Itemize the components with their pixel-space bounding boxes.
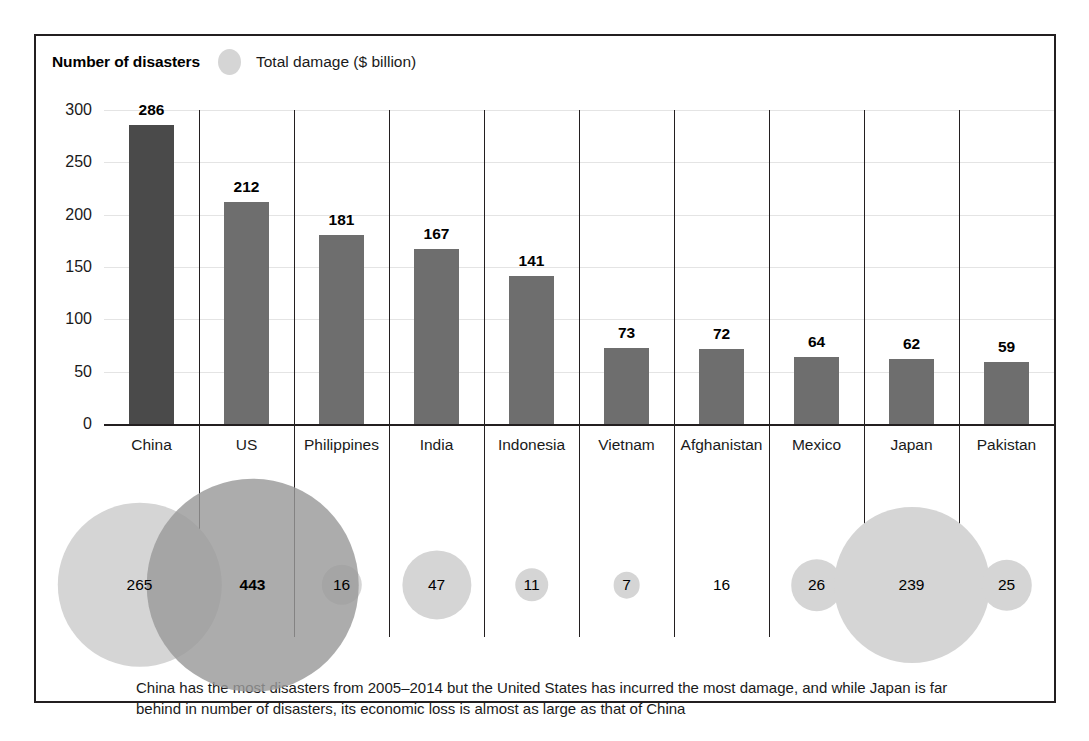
bar-pakistan[interactable] bbox=[984, 362, 1029, 424]
bar-value-label: 141 bbox=[519, 252, 545, 270]
bubble-value-label: 265 bbox=[127, 576, 153, 594]
y-axis-tick-label: 0 bbox=[54, 415, 92, 433]
bubble-value-label: 443 bbox=[240, 576, 266, 594]
bubble-value-label: 7 bbox=[622, 576, 631, 594]
bar-value-label: 181 bbox=[329, 211, 355, 229]
bubble-value-label: 11 bbox=[523, 576, 539, 594]
bubble-value-label: 25 bbox=[998, 576, 1015, 594]
bar-value-label: 73 bbox=[618, 324, 635, 342]
bubble-value-label: 47 bbox=[428, 576, 445, 594]
bubble-value-label: 239 bbox=[899, 576, 925, 594]
y-axis-tick-label: 250 bbox=[54, 153, 92, 171]
bar-china[interactable] bbox=[129, 125, 174, 424]
bar-value-label: 62 bbox=[903, 335, 920, 353]
category-separator bbox=[579, 110, 580, 637]
bar-indonesia[interactable] bbox=[509, 276, 554, 424]
bar-afghanistan[interactable] bbox=[699, 349, 744, 424]
x-axis-category-label: Afghanistan bbox=[681, 436, 763, 454]
bar-india[interactable] bbox=[414, 249, 459, 424]
category-separator bbox=[674, 110, 675, 637]
bubble-value-label: 16 bbox=[333, 576, 350, 594]
bar-value-label: 72 bbox=[713, 325, 730, 343]
x-axis-category-label: Indonesia bbox=[498, 436, 565, 454]
bar-value-label: 64 bbox=[808, 333, 825, 351]
category-separator bbox=[484, 110, 485, 637]
bubble-value-label: 16 bbox=[713, 576, 730, 594]
bar-mexico[interactable] bbox=[794, 357, 839, 424]
y-axis-tick-label: 100 bbox=[54, 310, 92, 328]
x-axis-category-label: Japan bbox=[890, 436, 932, 454]
x-axis-category-label: India bbox=[420, 436, 454, 454]
y-axis-tick-label: 300 bbox=[54, 101, 92, 119]
x-axis-category-label: Pakistan bbox=[977, 436, 1036, 454]
bubble-value-label: 26 bbox=[808, 576, 825, 594]
category-separator bbox=[769, 110, 770, 637]
x-axis-category-label: China bbox=[131, 436, 172, 454]
x-axis-category-label: Mexico bbox=[792, 436, 841, 454]
bar-value-label: 167 bbox=[424, 225, 450, 243]
chart-frame: Number of disasters Total damage ($ bill… bbox=[34, 34, 1056, 703]
x-axis-category-label: Vietnam bbox=[598, 436, 655, 454]
bar-vietnam[interactable] bbox=[604, 348, 649, 424]
category-separator bbox=[389, 110, 390, 637]
bar-philippines[interactable] bbox=[319, 235, 364, 424]
bar-us[interactable] bbox=[224, 202, 269, 424]
bar-japan[interactable] bbox=[889, 359, 934, 424]
y-axis-tick-label: 150 bbox=[54, 258, 92, 276]
x-axis-category-label: US bbox=[236, 436, 258, 454]
y-axis-tick-label: 50 bbox=[54, 363, 92, 381]
plot-area: 050100150200250300286China212US181Philip… bbox=[36, 36, 1054, 701]
bar-value-label: 212 bbox=[234, 178, 260, 196]
y-axis-tick-label: 200 bbox=[54, 206, 92, 224]
bar-value-label: 59 bbox=[998, 338, 1015, 356]
bar-value-label: 286 bbox=[139, 101, 165, 119]
x-axis-category-label: Philippines bbox=[304, 436, 379, 454]
